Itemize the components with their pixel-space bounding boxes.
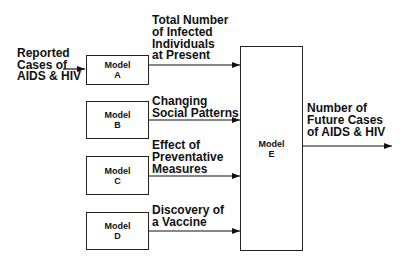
model-b-output-label: Changing Social Patterns bbox=[152, 96, 239, 119]
model-c-box: Model C bbox=[86, 156, 149, 195]
model-c-output-label: Effect of Preventative Measures bbox=[152, 140, 223, 175]
input-label: Reported Cases of AIDS & HIV bbox=[17, 48, 81, 83]
model-d-output-label: Discovery of a Vaccine bbox=[152, 205, 224, 228]
model-b-box: Model B bbox=[86, 101, 149, 139]
model-d-box: Model D bbox=[86, 212, 149, 250]
model-a-box: Model A bbox=[86, 55, 149, 85]
model-a-output-label: Total Number of Infected Individuals at … bbox=[152, 15, 228, 62]
model-e-box: Model E bbox=[240, 46, 303, 251]
final-output-label: Number of Future Cases of AIDS & HIV bbox=[307, 103, 385, 138]
